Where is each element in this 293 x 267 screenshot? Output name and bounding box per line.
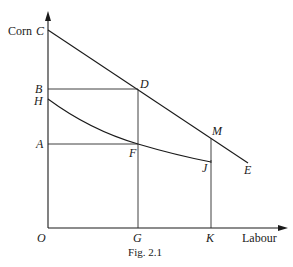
y-axis-label: Corn [8, 24, 32, 38]
label-g: G [133, 231, 142, 245]
figure-caption: Fig. 2.1 [128, 246, 162, 258]
label-f: F [128, 146, 137, 160]
label-d: D [139, 77, 149, 91]
label-o: O [37, 231, 46, 245]
economic-diagram: Corn Labour C B H A O D F M J E G K Fig.… [0, 0, 293, 267]
label-h: H [33, 94, 44, 108]
label-j: J [202, 161, 208, 175]
label-m: M [211, 124, 223, 138]
label-a: A [35, 137, 44, 151]
line-ce [48, 30, 248, 163]
y-axis-arrow-icon [45, 11, 51, 21]
label-c: C [36, 24, 45, 38]
x-axis-label: Labour [242, 231, 277, 245]
x-axis-arrow-icon [278, 225, 288, 231]
label-e: E [243, 163, 252, 177]
label-k: K [205, 231, 215, 245]
